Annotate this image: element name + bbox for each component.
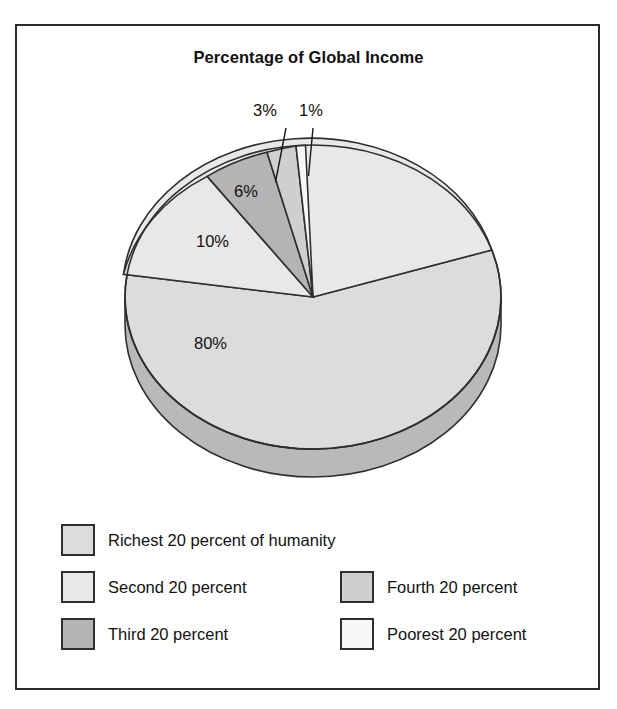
legend-item-poorest-20-percent[interactable]: Poorest 20 percent bbox=[340, 618, 526, 650]
legend-item-fourth-20-percent[interactable]: Fourth 20 percent bbox=[340, 571, 517, 603]
legend-label-fourth-20-percent: Fourth 20 percent bbox=[387, 578, 517, 597]
legend-swatch-icon-poorest-20-percent bbox=[340, 618, 374, 650]
chart-page: Percentage of Global Income bbox=[0, 0, 617, 709]
legend-swatch-icon-richest-20-percent bbox=[61, 524, 95, 556]
legend-swatch-icon-second-20-percent bbox=[61, 571, 95, 603]
legend-label-richest-20-percent: Richest 20 percent of humanity bbox=[108, 531, 335, 550]
legend-item-richest-20-percent[interactable]: Richest 20 percent of humanity bbox=[61, 524, 335, 556]
legend-swatch-icon-fourth-20-percent bbox=[340, 571, 374, 603]
legend-swatch-icon-third-20-percent bbox=[61, 618, 95, 650]
legend-label-poorest-20-percent: Poorest 20 percent bbox=[387, 625, 526, 644]
legend-item-second-20-percent[interactable]: Second 20 percent bbox=[61, 571, 247, 603]
legend-item-third-20-percent[interactable]: Third 20 percent bbox=[61, 618, 228, 650]
chart-legend: Richest 20 percent of humanity Second 20… bbox=[0, 0, 617, 709]
legend-label-third-20-percent: Third 20 percent bbox=[108, 625, 228, 644]
legend-label-second-20-percent: Second 20 percent bbox=[108, 578, 247, 597]
